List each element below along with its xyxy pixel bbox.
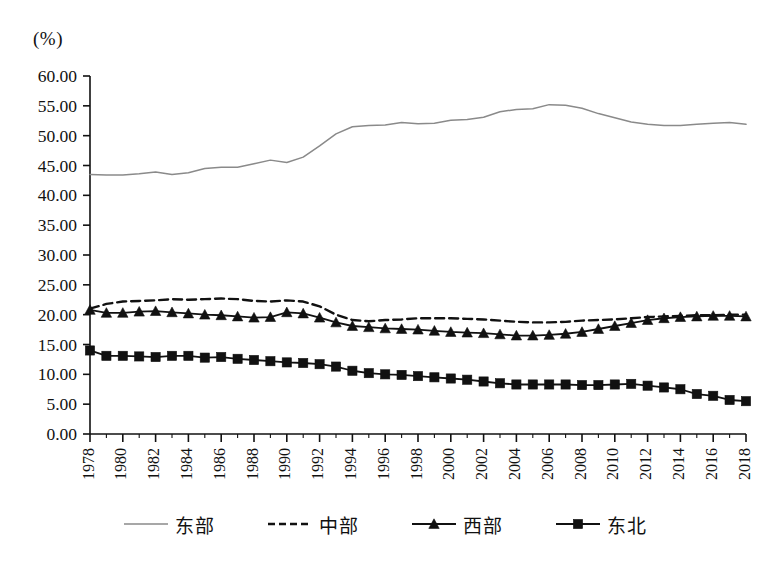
legend-swatch-东部 [123,515,169,533]
x-axis-tick-label: 2012 [637,448,654,480]
x-axis-tick-label: 2000 [440,448,457,480]
x-axis-tick-label: 1996 [375,448,392,480]
y-axis-tick-label: 35.00 [38,215,78,235]
y-axis-tick-label: 15.00 [38,335,78,355]
y-axis: 0.005.0010.0015.0020.0025.0030.0035.0040… [38,66,90,444]
data-point-marker [184,351,193,360]
data-point-marker [118,351,127,360]
y-axis-tick-label: 45.00 [38,156,78,176]
y-axis-tick-label: 50.00 [38,126,78,146]
legend-label: 西部 [463,511,503,538]
data-point-marker [725,395,734,404]
y-axis-tick-label: 20.00 [38,305,78,325]
data-point-marker [282,358,291,367]
y-axis-tick-label: 40.00 [38,185,78,205]
x-axis-tick-label: 1978 [80,448,97,480]
legend-label: 东部 [175,511,215,538]
legend-swatch-东北 [555,515,601,533]
data-point-marker [200,353,209,362]
legend-label: 东北 [607,511,647,538]
x-axis-tick-label: 1988 [244,448,261,480]
data-point-marker [659,383,668,392]
data-point-marker [463,375,472,384]
data-point-marker [741,397,750,406]
series-东北 [85,346,750,406]
series-东部 [90,105,746,175]
x-axis-tick-label: 2014 [670,448,687,480]
x-axis-tick-label: 2004 [506,448,523,480]
data-point-marker [299,358,308,367]
data-point-marker [233,354,242,363]
data-point-marker [430,373,439,382]
legend-marker-东北 [573,519,582,528]
data-point-marker [85,305,95,315]
data-point-marker [479,377,488,386]
x-axis-tick-label: 2010 [604,448,621,480]
y-axis-tick-label: 5.00 [46,394,77,414]
x-axis-tick-label: 2016 [703,448,720,480]
data-point-marker [364,369,373,378]
legend-swatch-西部 [411,515,457,533]
data-point-marker [315,360,324,369]
y-axis-tick-label: 30.00 [38,245,78,265]
data-point-marker [249,355,258,364]
legend-item-东部[interactable]: 东部 [123,511,215,538]
x-axis-tick-label: 1992 [309,448,326,480]
series-line-东部 [90,105,746,175]
y-axis-tick-label: 0.00 [46,424,77,444]
data-point-marker [545,380,554,389]
data-point-marker [397,370,406,379]
data-point-marker [167,351,176,360]
data-point-marker [413,372,422,381]
x-axis-tick-label: 1982 [145,448,162,480]
data-point-marker [85,346,94,355]
x-axis-tick-label: 2006 [539,448,556,480]
data-point-marker [561,380,570,389]
y-axis-tick-label: 10.00 [38,364,78,384]
x-axis-tick-label: 2002 [473,448,490,480]
data-series-group [85,105,751,406]
data-point-marker [692,389,701,398]
y-axis-tick-label: 60.00 [38,66,78,86]
legend-item-东北[interactable]: 东北 [555,511,647,538]
data-point-marker [266,357,275,366]
data-point-marker [610,380,619,389]
data-point-marker [676,385,685,394]
data-point-marker [709,391,718,400]
data-point-marker [594,380,603,389]
data-point-marker [151,352,160,361]
data-point-marker [643,381,652,390]
data-point-marker [381,370,390,379]
series-西部 [85,305,751,340]
x-axis-tick-label: 1994 [342,448,359,480]
x-axis-tick-label: 2008 [572,448,589,480]
x-axis-tick-label: 1998 [408,448,425,480]
legend-item-中部[interactable]: 中部 [267,511,359,538]
x-axis-tick-label: 2018 [736,448,753,480]
legend-label: 中部 [319,511,359,538]
chart-legend: 东部中部西部东北 [0,500,770,548]
data-point-marker [446,374,455,383]
data-point-marker [512,380,521,389]
data-point-marker [217,352,226,361]
data-point-marker [627,379,636,388]
x-axis-tick-label: 1984 [178,448,195,480]
data-point-marker [135,352,144,361]
legend-item-西部[interactable]: 西部 [411,511,503,538]
data-point-marker [102,351,111,360]
x-axis-tick-label: 1986 [211,448,228,480]
y-axis-tick-label: 55.00 [38,96,78,116]
x-axis-tick-label: 1990 [276,448,293,480]
chart-container: (%) 0.005.0010.0015.0020.0025.0030.0035.… [0,0,770,568]
y-axis-tick-label: 25.00 [38,275,78,295]
data-point-marker [577,380,586,389]
data-point-marker [495,379,504,388]
data-point-marker [528,380,537,389]
legend-swatch-中部 [267,515,313,533]
line-chart-plot: 0.005.0010.0015.0020.0025.0030.0035.0040… [0,0,770,500]
data-point-marker [348,366,357,375]
x-axis-tick-label: 1980 [112,448,129,480]
data-point-marker [331,362,340,371]
x-axis: 1978198019821984198619881990199219941996… [80,434,753,480]
